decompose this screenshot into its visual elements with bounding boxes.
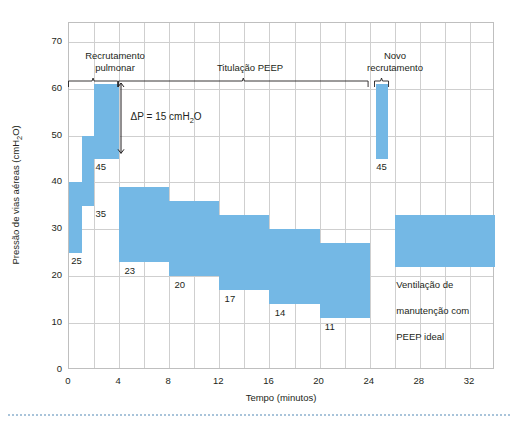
- bar-segment: [376, 84, 389, 159]
- bar-value-label: 14: [275, 307, 286, 318]
- maintenance-line1: Ventilação de: [396, 278, 469, 291]
- gridline-vertical: [94, 23, 95, 368]
- y-axis-tick-label: 10: [38, 316, 62, 327]
- phase-label-titulacao-text: Titulação PEEP: [160, 62, 340, 74]
- x-axis-tick-label: 28: [407, 375, 431, 386]
- x-axis-tick-label: 32: [457, 375, 481, 386]
- bar-value-label: 20: [175, 279, 186, 290]
- annotation-ventilacao-manutencao: Ventilação de manutenção com PEEP ideal: [396, 265, 469, 356]
- phase-label-recrutamento-line2: pulmonar: [60, 62, 170, 74]
- bracket-recrutamento-pulmonar: [68, 78, 118, 90]
- bar-segment: [269, 229, 319, 304]
- x-axis-title: Tempo (minutos): [68, 392, 494, 403]
- bar-value-label: 45: [96, 161, 107, 172]
- gridline-horizontal: [69, 136, 493, 137]
- x-axis-tick-label: 20: [307, 375, 331, 386]
- bar-segment: [395, 215, 495, 267]
- bar-value-label: 17: [225, 293, 236, 304]
- x-axis-tick-label: 16: [256, 375, 280, 386]
- gridline-vertical: [470, 23, 471, 368]
- x-axis-tick-label: 4: [106, 375, 130, 386]
- gridline-vertical: [370, 23, 371, 368]
- y-axis-tick-label: 60: [38, 82, 62, 93]
- phase-label-recrutamento-line1: Recrutamento: [60, 50, 170, 62]
- gridline-vertical: [194, 23, 195, 368]
- bar-value-label: 45: [376, 161, 387, 172]
- bracket-titulacao-peep: [118, 78, 369, 90]
- phase-label-novo-line2: recrutamento: [351, 62, 439, 74]
- y-axis-tick-label: 20: [38, 269, 62, 280]
- bar-value-label: 23: [124, 265, 135, 276]
- x-axis-tick-label: 12: [206, 375, 230, 386]
- gridline-vertical: [269, 23, 270, 368]
- maintenance-line3: PEEP ideal: [396, 330, 469, 343]
- gridline-vertical: [244, 23, 245, 368]
- bar-value-label: 25: [71, 255, 82, 266]
- phase-label-novo-line1: Novo: [351, 50, 439, 62]
- y-axis-tick-label: 50: [38, 129, 62, 140]
- bottom-dotted-divider: [8, 414, 510, 416]
- x-axis-tick-label: 8: [156, 375, 180, 386]
- chart-figure: 010203040506070 048121620242832 Tempo (m…: [0, 0, 518, 424]
- x-axis-tick-label: 24: [357, 375, 381, 386]
- y-axis-tick-label: 40: [38, 175, 62, 186]
- delta-p-double-arrow: [116, 81, 126, 155]
- y-axis-tick-label: 70: [38, 35, 62, 46]
- y-axis-title: Pressão de vias aéreas (cmH2O): [10, 115, 24, 275]
- bar-value-label: 35: [96, 208, 107, 219]
- bar-segment: [169, 201, 219, 276]
- bar-value-label: 11: [325, 321, 335, 332]
- x-axis-title-text: Tempo (minutos): [246, 392, 317, 403]
- gridline-vertical: [219, 23, 220, 368]
- gridline-vertical: [295, 23, 296, 368]
- bar-segment: [119, 187, 169, 262]
- y-axis-tick-label: 0: [38, 363, 62, 374]
- delta-p-pre: ΔP = 15 cmH: [131, 111, 190, 122]
- bracket-novo-recrutamento: [374, 78, 389, 90]
- gridline-vertical: [169, 23, 170, 368]
- maintenance-line2: manutenção com: [396, 304, 469, 317]
- bar-segment: [320, 243, 370, 318]
- y-axis-title-subscript: 2: [15, 136, 24, 140]
- gridline-horizontal: [69, 182, 493, 183]
- delta-p-post: O: [194, 111, 202, 122]
- bar-segment: [69, 182, 82, 252]
- gridline-horizontal: [69, 42, 493, 43]
- phase-label-recrutamento-pulmonar: Recrutamento pulmonar: [60, 50, 170, 74]
- y-axis-title-text-end: O): [10, 125, 21, 136]
- annotation-delta-p: ΔP = 15 cmH2O: [131, 111, 202, 125]
- y-axis-tick-label: 30: [38, 222, 62, 233]
- bar-segment: [219, 215, 269, 290]
- y-axis-title-text-main: Pressão de vias aéreas (cmH: [10, 140, 21, 265]
- phase-label-titulacao-peep: Titulação PEEP: [160, 62, 340, 74]
- x-axis-tick-label: 0: [56, 375, 80, 386]
- phase-label-novo-recrutamento: Novo recrutamento: [351, 50, 439, 74]
- bar-segment: [82, 136, 95, 206]
